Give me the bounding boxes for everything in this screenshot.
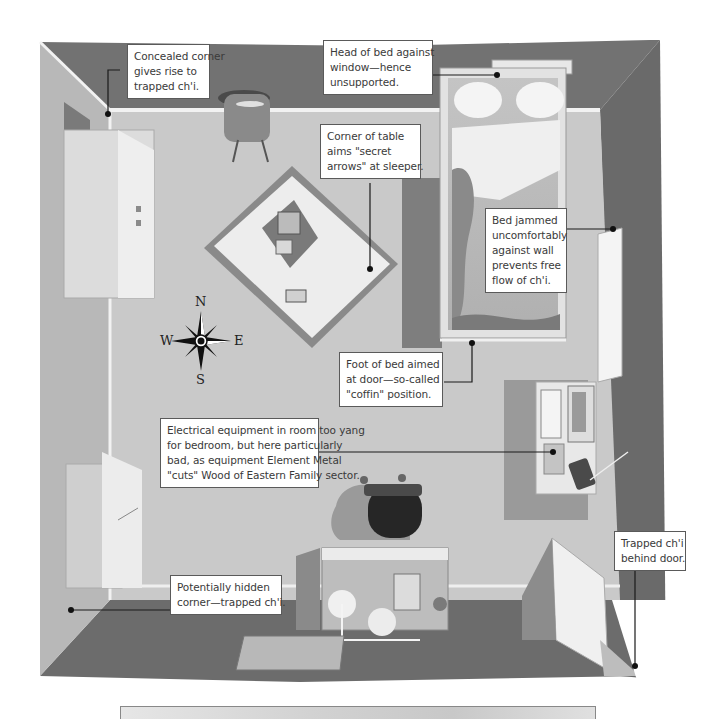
wardrobe: [64, 102, 154, 298]
callout-electrical-equipment: Electrical equipment in room too yang fo…: [160, 418, 319, 488]
compass-east-label: E: [234, 333, 244, 348]
callout-corner-of-table: Corner of table aims "secret arrows" at …: [320, 124, 421, 179]
callout-concealed-corner: Concealed corner gives rise to trapped c…: [127, 44, 210, 99]
callout-text-line: corner—trapped ch'i.: [177, 595, 275, 610]
callout-text-line: window—hence: [330, 60, 426, 75]
callout-text-line: arrows" at sleeper.: [327, 159, 414, 174]
callout-bed-jammed: Bed jammed uncomfortably against wall pr…: [485, 208, 567, 293]
callout-text-line: flow of ch'i.: [492, 273, 560, 288]
callout-text-line: behind door.: [621, 551, 679, 566]
callout-text-line: Foot of bed aimed: [346, 357, 436, 372]
callout-text-line: Head of bed against: [330, 45, 426, 60]
callout-behind-door: Trapped ch'i behind door.: [614, 531, 686, 571]
callout-text-line: Electrical equipment in room too yang: [167, 423, 312, 438]
callout-text-line: Concealed corner: [134, 49, 203, 64]
callout-foot-of-bed: Foot of bed aimed at door—so-called "cof…: [339, 352, 443, 407]
caption-strip: [120, 706, 596, 719]
callout-text-line: Trapped ch'i: [621, 536, 679, 551]
callout-text-line: unsupported.: [330, 75, 426, 90]
callout-text-line: gives rise to: [134, 64, 203, 79]
callout-text-line: "coffin" position.: [346, 387, 436, 402]
callout-text-line: trapped ch'i.: [134, 79, 203, 94]
rug: [236, 636, 344, 670]
window-right: [598, 228, 622, 382]
callout-text-line: against wall: [492, 243, 560, 258]
compass-north-label: N: [195, 294, 206, 309]
callout-text-line: at door—so-called: [346, 372, 436, 387]
cabinet: [66, 452, 142, 588]
callout-text-line: uncomfortably: [492, 228, 560, 243]
callout-text-line: Corner of table: [327, 129, 414, 144]
callout-text-line: prevents free: [492, 258, 560, 273]
callout-text-line: "cuts" Wood of Eastern Family sector.: [167, 468, 312, 483]
callout-hidden-corner: Potentially hidden corner—trapped ch'i.: [170, 575, 282, 615]
callout-text-line: Potentially hidden: [177, 580, 275, 595]
callout-text-line: bad, as equipment Element Metal: [167, 453, 312, 468]
callout-text-line: for bedroom, but here particularly: [167, 438, 312, 453]
compass-south-label: S: [196, 372, 205, 387]
dressing-table: [296, 548, 448, 640]
callout-head-of-bed: Head of bed against window—hence unsuppo…: [323, 40, 433, 95]
callout-text-line: Bed jammed: [492, 213, 560, 228]
compass-west-label: W: [160, 333, 173, 348]
callout-text-line: aims "secret: [327, 144, 414, 159]
